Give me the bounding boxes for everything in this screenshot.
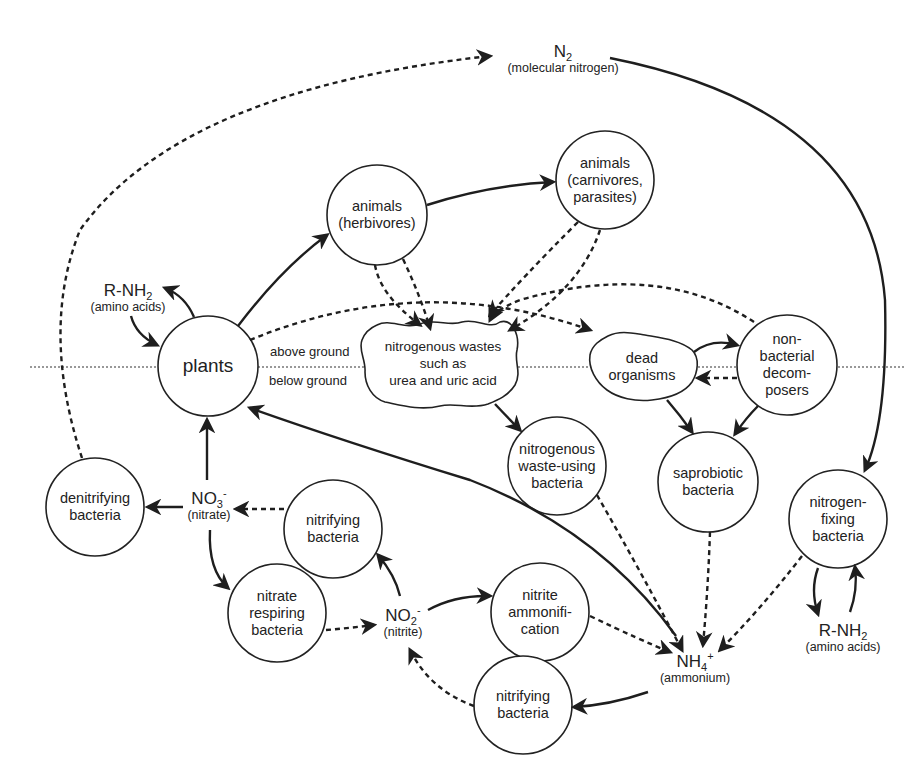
decomposers-label: non- bacterial decom- posers xyxy=(760,331,815,399)
rnh2-fixers-label: R-NH2 (amino acids) xyxy=(805,621,880,654)
arrow-nitrate-respiring-to-no2 xyxy=(326,625,374,630)
arrow-fixers-to-nh4 xyxy=(720,556,802,650)
herbivores-label: animals (herbivores) xyxy=(338,198,415,232)
arrow-no3-to-nitrate-respiring xyxy=(210,530,228,588)
arrow-n2-to-fixers xyxy=(610,58,885,470)
nitrifying-upper-label: nitrifying bacteria xyxy=(306,512,360,546)
waste-bacteria-label: nitrogenous waste-using bacteria xyxy=(518,441,595,492)
wastes-label: nitrogenous wastes such as urea and uric… xyxy=(385,338,501,389)
nitrate-respiring-label: nitrate respiring bacteria xyxy=(249,588,305,639)
plants-label: plants xyxy=(183,355,234,377)
arrow-plants-to-rnh2 xyxy=(165,288,194,317)
arrow-wastes-to-waste-bacteria xyxy=(495,404,520,430)
arrow-herbivores-to-dead xyxy=(403,259,430,328)
arrow-nh4-to-nitrifying-lower xyxy=(574,692,648,707)
nitrogen-fixing-label: nitrogen- fixing bacteria xyxy=(809,494,866,545)
nitrite-ammonification-label: nitrite ammonifi- cation xyxy=(508,587,572,638)
nitrifying-lower-label: nitrifying bacteria xyxy=(496,688,550,722)
nh4-label: NH4+ (ammonium) xyxy=(660,652,730,685)
arrow-herbivores-to-carnivores xyxy=(427,182,553,205)
arrow-decomposers-to-saprobiotic xyxy=(735,406,758,434)
arrow-no2-to-nitrifying-upper xyxy=(378,555,400,596)
above-ground-label: above ground xyxy=(270,344,350,359)
n2-label: N2 (molecular nitrogen) xyxy=(507,42,618,75)
below-ground-label: below ground xyxy=(269,373,347,388)
saprobiotic-label: saprobiotic bacteria xyxy=(673,465,743,499)
arrow-ammonification-to-nh4 xyxy=(590,616,670,652)
arrow-dead-to-decomposers xyxy=(694,343,737,352)
arrow-nitrifying-lower-to-no2 xyxy=(410,650,474,706)
carnivores-label: animals (carnivores, parasites) xyxy=(567,155,643,206)
arrow-no2-to-ammonification xyxy=(428,596,490,610)
dead-label: dead organisms xyxy=(609,350,676,384)
no2-label: NO2- (nitrite) xyxy=(384,606,423,639)
arrow-dead-to-saprobiotic xyxy=(667,400,692,432)
arrow-rnh2-to-fixers xyxy=(850,567,856,612)
arrow-rnh2-to-plants xyxy=(131,316,157,345)
arrow-herbivores-to-wastes xyxy=(375,265,420,325)
arrow-plants-to-herbivores xyxy=(238,235,327,326)
arrow-decomposers-to-waste xyxy=(490,284,754,322)
arrow-fixers-to-rnh2 xyxy=(814,568,818,614)
rnh2-plants-label: R-NH2 (amino acids) xyxy=(90,281,165,314)
arrow-carnivores-to-wastes-2 xyxy=(510,230,600,330)
arrow-saprobiotic-to-nh4 xyxy=(703,532,710,645)
denitrifying-label: denitrifying bacteria xyxy=(60,490,130,524)
no3-label: NO3- (nitrate) xyxy=(187,489,230,522)
arrow-carnivores-to-wastes-1 xyxy=(490,222,578,315)
